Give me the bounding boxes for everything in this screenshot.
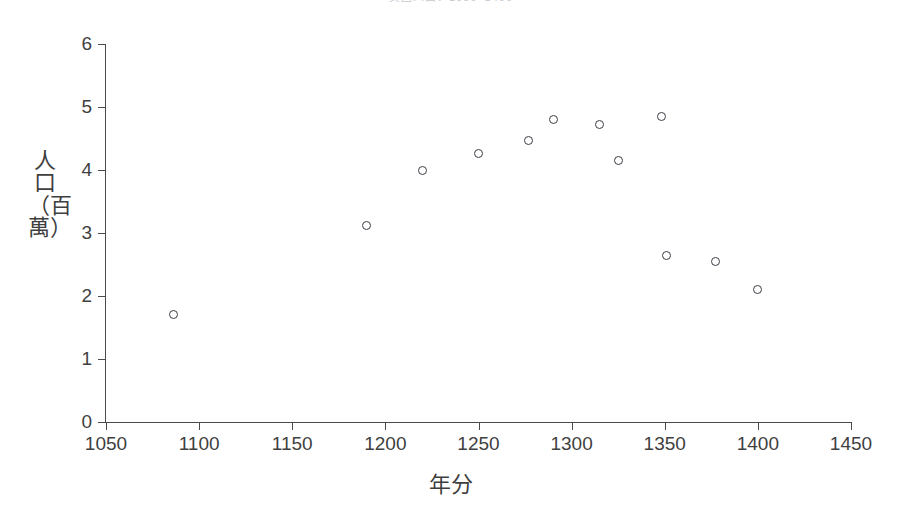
y-tick bbox=[98, 296, 106, 297]
x-tick-label: 1400 bbox=[718, 434, 798, 455]
y-tick-label: 6 bbox=[52, 34, 92, 53]
x-tick bbox=[479, 422, 480, 430]
y-tick-label: 2 bbox=[52, 286, 92, 305]
y-tick-label: 5 bbox=[52, 97, 92, 116]
data-point bbox=[614, 156, 623, 165]
data-point bbox=[711, 257, 720, 266]
data-point bbox=[753, 285, 762, 294]
y-tick bbox=[98, 170, 106, 171]
data-point bbox=[524, 136, 533, 145]
data-point bbox=[362, 221, 371, 230]
y-tick bbox=[98, 422, 106, 423]
chart-title: 英國人口：1086–1400 bbox=[0, 0, 902, 2]
plot-area bbox=[106, 44, 851, 422]
data-point bbox=[474, 149, 483, 158]
x-tick bbox=[572, 422, 573, 430]
chart-figure: 英國人口：1086–1400 0123456 10501100115012001… bbox=[0, 0, 902, 516]
x-tick bbox=[758, 422, 759, 430]
x-tick bbox=[851, 422, 852, 430]
x-tick-label: 1350 bbox=[625, 434, 705, 455]
y-tick-label: 1 bbox=[52, 349, 92, 368]
x-tick bbox=[106, 422, 107, 430]
x-tick-label: 1250 bbox=[439, 434, 519, 455]
data-point bbox=[418, 166, 427, 175]
x-tick-label: 1300 bbox=[532, 434, 612, 455]
y-tick bbox=[98, 107, 106, 108]
x-tick bbox=[385, 422, 386, 430]
y-tick bbox=[98, 359, 106, 360]
x-tick bbox=[199, 422, 200, 430]
x-tick-label: 1050 bbox=[66, 434, 146, 455]
x-tick bbox=[292, 422, 293, 430]
x-tick-label: 1450 bbox=[811, 434, 891, 455]
data-point bbox=[595, 120, 604, 129]
data-point bbox=[549, 115, 558, 124]
data-point bbox=[662, 251, 671, 260]
data-point bbox=[169, 310, 178, 319]
x-tick-label: 1100 bbox=[159, 434, 239, 455]
x-axis-title: 年分 bbox=[0, 466, 902, 498]
y-tick-label: 0 bbox=[52, 412, 92, 431]
x-tick-label: 1200 bbox=[345, 434, 425, 455]
x-tick bbox=[665, 422, 666, 430]
y-tick bbox=[98, 44, 106, 45]
y-tick bbox=[98, 233, 106, 234]
data-point bbox=[657, 112, 666, 121]
y-axis-title: 人口（百萬） bbox=[28, 150, 62, 240]
x-tick-label: 1150 bbox=[252, 434, 332, 455]
